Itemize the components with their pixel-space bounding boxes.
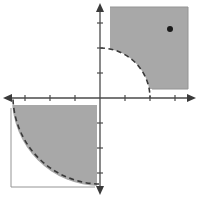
test-point [167,26,173,32]
quadrant-III-shaded-region [11,99,99,188]
quadrant-III-clipped [11,105,97,188]
quadrant-I-clipped [104,1,194,95]
quadrant-III-fill [11,105,97,188]
graph-canvas [0,0,199,198]
y-axis [96,3,104,195]
coordinate-plane-figure [0,0,199,198]
arrow-down-icon [96,186,104,195]
arrow-up-icon [96,3,104,12]
arrow-right-icon [187,94,196,102]
quadrant-I-fill [104,1,194,95]
arrow-left-icon [3,94,12,102]
quadrant-I-shaded-region [100,1,194,98]
